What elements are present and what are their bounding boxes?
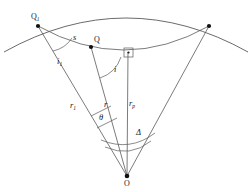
label-radius-rp: rp <box>129 99 135 110</box>
surface-arc <box>4 18 248 52</box>
label-Q-text: Q <box>94 35 100 44</box>
point-right-endpoint <box>207 24 211 28</box>
label-i-text: i <box>114 64 116 74</box>
label-i1-subscript: 1 <box>59 61 62 67</box>
label-radius-r1: r1 <box>70 101 76 112</box>
angle-delta-arc-inner <box>105 141 151 151</box>
radius-line-r1 <box>38 26 127 176</box>
label-angle-delta: Δ <box>136 128 141 137</box>
right-angle-dot-icon <box>127 51 129 53</box>
label-point-O: O <box>124 180 130 188</box>
label-Q1-subscript: 1 <box>37 16 40 22</box>
label-point-Q: Q <box>94 36 100 44</box>
angle-i-arc <box>100 57 121 78</box>
point-Q1 <box>36 24 40 28</box>
label-delta-text: Δ <box>136 127 141 137</box>
point-O <box>125 174 130 179</box>
radius-line-r <box>91 47 127 176</box>
label-theta-text: θ <box>99 112 103 122</box>
label-O-text: O <box>124 179 130 188</box>
point-Q <box>89 45 93 49</box>
label-angle-theta: θ <box>99 113 103 122</box>
label-r-text: r <box>104 99 107 109</box>
radius-line-right <box>127 26 209 176</box>
radius-line-rp <box>127 52 128 176</box>
label-s-text: s <box>73 32 76 42</box>
figure-canvas <box>0 0 252 192</box>
label-point-Q1: Q1 <box>31 13 40 23</box>
label-radius-r: r <box>104 100 107 109</box>
label-rp-subscript: p <box>132 103 135 109</box>
ray-path-geometry-figure: Q1 Q O s i1 i r1 r rp θ Δ <box>0 0 252 192</box>
label-angle-i: i <box>114 65 116 74</box>
label-r1-subscript: 1 <box>73 105 76 111</box>
label-arc-length-s: s <box>73 33 76 42</box>
label-angle-i1: i1 <box>57 57 62 68</box>
